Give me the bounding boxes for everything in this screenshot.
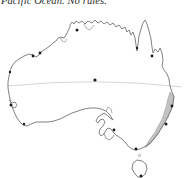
- city-dot-perth: [10, 104, 13, 107]
- city-dot-sydney: [165, 123, 168, 126]
- tasmania-outline: [132, 160, 147, 177]
- city-dots: [9, 29, 174, 178]
- australia-map-svg: [0, 8, 188, 178]
- caption-text: Pacific Ocean. No rules.: [1, 0, 107, 6]
- city-dot-brisbane: [171, 105, 174, 108]
- coastline-north-inlet: [84, 24, 94, 30]
- bass-strait-islet: [138, 154, 141, 157]
- tropic-of-capricorn-line: [8, 82, 182, 87]
- east-coast-corridor-band: [145, 92, 174, 148]
- city-dot-melbourne: [135, 148, 138, 151]
- city-dot-weipa: [136, 47, 138, 49]
- city-dot-adelaide: [113, 129, 116, 132]
- caption-band: Pacific Ocean. No rules.: [0, 0, 188, 8]
- city-dot-alice-springs: [93, 78, 96, 81]
- city-dot-port-hedland: [32, 55, 35, 58]
- australia-map: [0, 8, 188, 178]
- city-dot-hobart: [140, 175, 143, 178]
- city-dot-carnarvon: [9, 71, 11, 73]
- city-dot-darwin: [76, 29, 79, 32]
- australia-coastline: [8, 20, 174, 150]
- map-figure-page: Pacific Ocean. No rules.: [0, 0, 188, 178]
- city-dot-albany: [23, 123, 25, 125]
- coastline-gulf-detail: [104, 134, 114, 140]
- city-dot-broome: [39, 52, 42, 55]
- city-dot-cairns: [151, 55, 154, 58]
